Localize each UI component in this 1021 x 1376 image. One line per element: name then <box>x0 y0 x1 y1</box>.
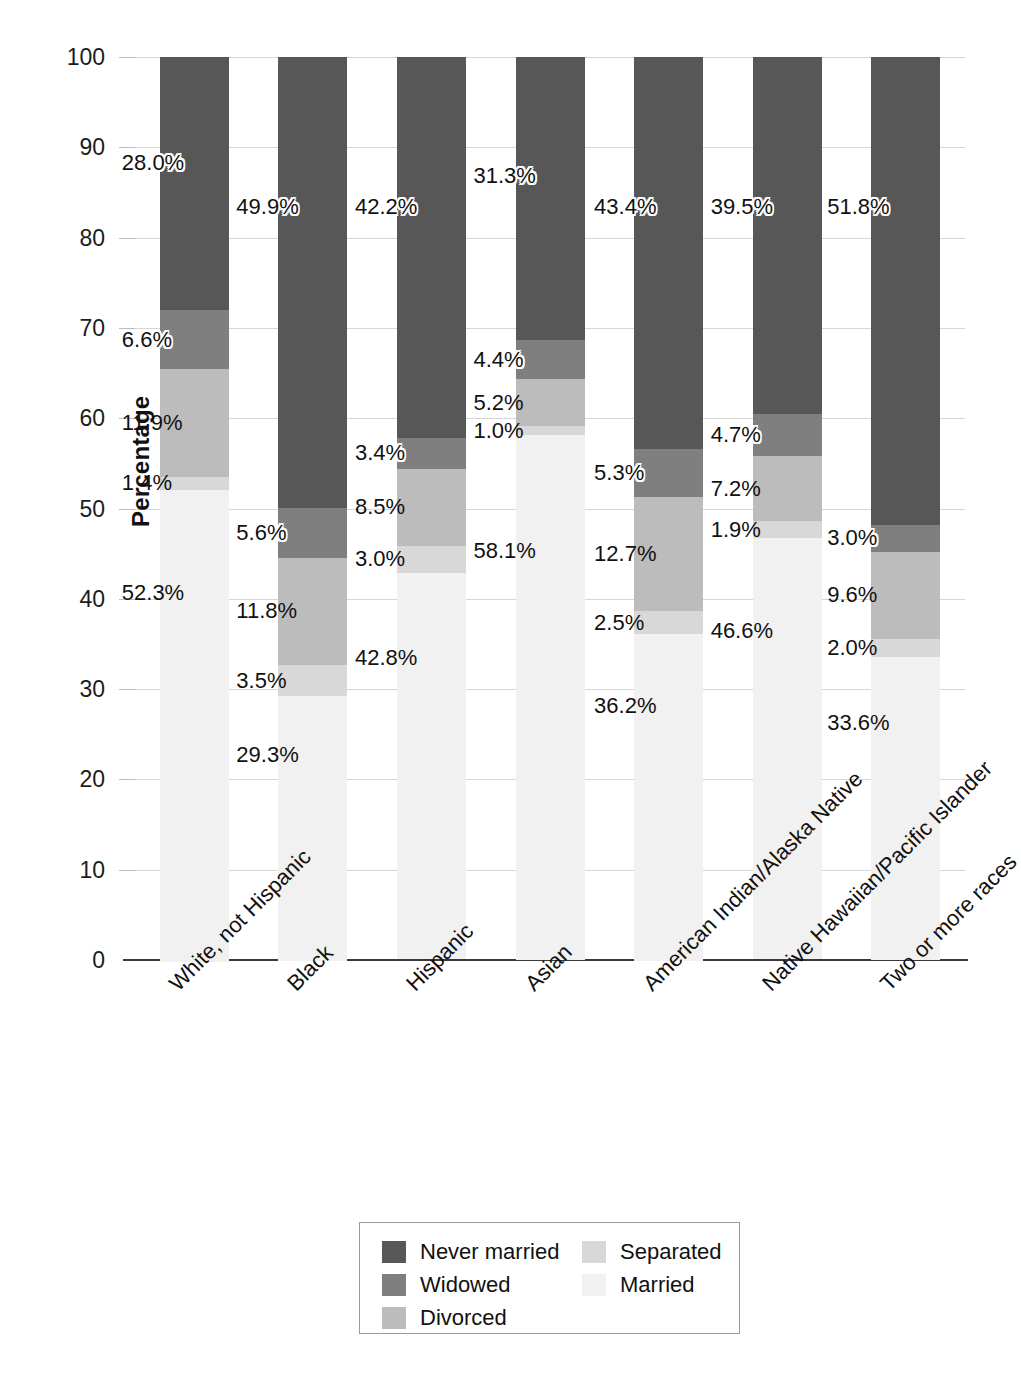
bar-2 <box>397 57 466 960</box>
bar-segment <box>753 57 822 414</box>
bar-segment <box>634 449 703 497</box>
value-label: 43.4% <box>594 196 656 218</box>
value-label: 3.5% <box>236 670 286 692</box>
bar-segment <box>397 469 466 546</box>
value-label: 8.5% <box>355 496 405 518</box>
legend-label: Widowed <box>420 1274 510 1296</box>
bar-segment <box>516 57 585 340</box>
y-tick-label: 60 <box>35 407 105 430</box>
bar-segment <box>871 525 940 552</box>
value-label: 9.6% <box>827 584 877 606</box>
bar-segment <box>278 57 347 508</box>
bar-segment <box>278 665 347 697</box>
value-label: 5.2% <box>474 392 524 414</box>
y-tick-label: 80 <box>35 227 105 250</box>
bar-segment <box>516 426 585 435</box>
bar-segment <box>516 379 585 426</box>
legend-item[interactable]: Widowed <box>382 1268 559 1301</box>
legend-swatch-icon <box>582 1274 606 1296</box>
plot-area: 0102030405060708090100 28.0%6.6%11.9%1.4… <box>135 57 965 960</box>
bar-segment <box>871 57 940 525</box>
bar-segment <box>753 521 822 538</box>
legend-item[interactable]: Separated <box>582 1235 722 1268</box>
bar-3 <box>516 57 585 960</box>
bar-segment <box>753 538 822 959</box>
value-label: 3.4% <box>355 442 405 464</box>
legend-item[interactable]: Married <box>582 1268 722 1301</box>
value-label: 52.3% <box>122 582 184 604</box>
legend-item[interactable]: Divorced <box>382 1301 559 1334</box>
value-label: 2.5% <box>594 612 644 634</box>
value-label: 4.4% <box>474 349 524 371</box>
y-tick-label: 20 <box>35 768 105 791</box>
bar-segment <box>278 696 347 961</box>
value-label: 1.9% <box>711 519 761 541</box>
bar-1 <box>278 57 347 960</box>
y-tick-label: 70 <box>35 317 105 340</box>
value-label: 3.0% <box>355 548 405 570</box>
value-label: 28.0% <box>122 152 184 174</box>
y-axis-title-text: Percentage <box>127 287 155 527</box>
bar-4 <box>634 57 703 960</box>
legend: Never marriedWidowedDivorced SeparatedMa… <box>359 1222 740 1334</box>
bar-segment <box>160 490 229 962</box>
legend-item[interactable]: Never married <box>382 1235 559 1268</box>
value-label: 46.6% <box>711 620 773 642</box>
bar-segment <box>634 611 703 634</box>
bar-segment <box>397 438 466 469</box>
legend-swatch-icon <box>382 1241 406 1263</box>
legend-swatch-icon <box>582 1241 606 1263</box>
bar-0 <box>160 57 229 960</box>
y-tick-label: 40 <box>35 588 105 611</box>
bar-segment <box>397 57 466 438</box>
y-tick-mark <box>119 238 135 239</box>
y-tick-mark <box>119 689 135 690</box>
value-label: 5.6% <box>236 522 286 544</box>
y-tick-mark <box>119 147 135 148</box>
bar-segment <box>753 414 822 456</box>
value-label: 42.8% <box>355 647 417 669</box>
legend-column-left: Never marriedWidowedDivorced <box>382 1235 559 1334</box>
value-label: 58.1% <box>474 540 536 562</box>
bar-segment <box>516 340 585 380</box>
legend-swatch-icon <box>382 1274 406 1296</box>
value-label: 49.9% <box>236 196 298 218</box>
legend-label: Separated <box>620 1241 722 1263</box>
value-label: 31.3% <box>474 165 536 187</box>
value-label: 29.3% <box>236 744 298 766</box>
value-label: 7.2% <box>711 478 761 500</box>
bar-segment <box>397 546 466 573</box>
value-label: 51.8% <box>827 196 889 218</box>
bar-segment <box>397 573 466 959</box>
y-tick-label: 30 <box>35 678 105 701</box>
value-label: 5.3% <box>594 462 644 484</box>
y-tick-label: 100 <box>35 46 105 69</box>
legend-label: Married <box>620 1274 695 1296</box>
legend-column-right: SeparatedMarried <box>582 1235 722 1301</box>
bar-segment <box>160 57 229 310</box>
y-tick-mark <box>119 779 135 780</box>
y-axis-title: Percentage <box>127 287 167 527</box>
y-tick-label: 0 <box>35 949 105 972</box>
bar-segment <box>634 634 703 961</box>
legend-swatch-icon <box>382 1307 406 1329</box>
bar-segment <box>278 508 347 559</box>
y-tick-label: 10 <box>35 859 105 882</box>
value-label: 36.2% <box>594 695 656 717</box>
bar-segment <box>871 552 940 639</box>
value-label: 42.2% <box>355 196 417 218</box>
bar-segment <box>871 639 940 657</box>
y-tick-mark <box>119 57 135 58</box>
value-label: 3.0% <box>827 527 877 549</box>
value-label: 33.6% <box>827 712 889 734</box>
y-tick-label: 90 <box>35 136 105 159</box>
bar-segment <box>634 57 703 449</box>
value-label: 11.8% <box>236 600 297 622</box>
value-label: 2.0% <box>827 637 877 659</box>
legend-label: Divorced <box>420 1307 507 1329</box>
bar-segment <box>753 456 822 521</box>
value-label: 12.7% <box>594 543 656 565</box>
value-label: 1.0% <box>474 420 524 442</box>
y-tick-mark <box>119 870 135 871</box>
